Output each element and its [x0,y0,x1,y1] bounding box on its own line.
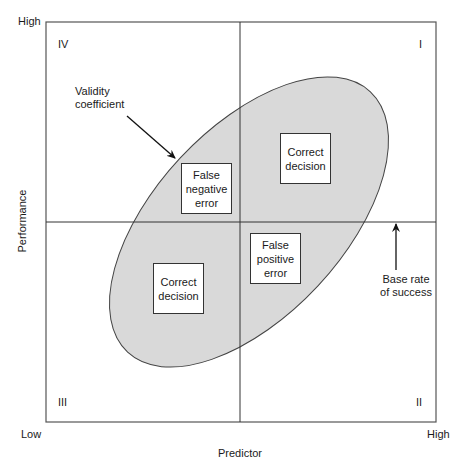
box-line: False [186,168,228,182]
diagram-canvas [0,0,465,471]
box-line: positive [257,252,294,266]
quadrant-i-label: I [419,38,422,51]
quadrant-iii-label: III [58,396,67,409]
box-line: error [186,196,228,210]
false-negative-box: False negative error [181,163,232,214]
quadrant-iv-label: IV [58,38,68,51]
validity-line-2: coefficient [75,98,124,111]
box-line: negative [186,182,228,196]
x-axis-high-label: High [427,428,450,441]
box-line: error [257,266,294,280]
correct-decision-upper-box: Correct decision [280,133,331,184]
false-positive-box: False positive error [250,233,301,284]
x-axis-title: Predictor [200,447,280,460]
validity-arrow-icon [127,116,175,158]
validity-line-1: Validity [75,85,124,98]
box-line: False [257,238,294,252]
correct-decision-lower-box: Correct decision [153,263,204,314]
quadrant-ii-label: II [416,396,422,409]
box-line: Correct [285,145,325,159]
base-rate-line-2: of success [370,286,442,299]
y-axis-title: Performance [16,186,28,256]
box-line: decision [158,289,198,303]
base-rate-line-1: Base rate [370,273,442,286]
validity-coefficient-label: Validity coefficient [75,85,124,111]
y-axis-high-label: High [18,15,41,28]
box-line: decision [285,159,325,173]
x-axis-low-label: Low [21,428,41,441]
box-line: Correct [158,275,198,289]
base-rate-label: Base rate of success [370,273,442,299]
